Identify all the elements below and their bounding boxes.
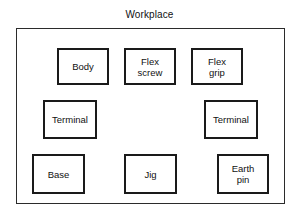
part-box: Earth pin <box>217 154 269 194</box>
page-title: Workplace <box>0 9 299 21</box>
part-box: Body <box>57 48 109 85</box>
diagram-canvas: Workplace BodyFlex screwFlex gripTermina… <box>0 0 299 219</box>
part-box: Terminal <box>43 100 97 139</box>
part-box: Flex grip <box>191 48 243 85</box>
workplace-frame: BodyFlex screwFlex gripTerminalTerminalB… <box>16 28 285 204</box>
part-box: Terminal <box>204 100 258 139</box>
part-box: Jig <box>124 154 177 194</box>
part-box: Flex screw <box>124 48 176 85</box>
part-box: Base <box>32 154 85 194</box>
